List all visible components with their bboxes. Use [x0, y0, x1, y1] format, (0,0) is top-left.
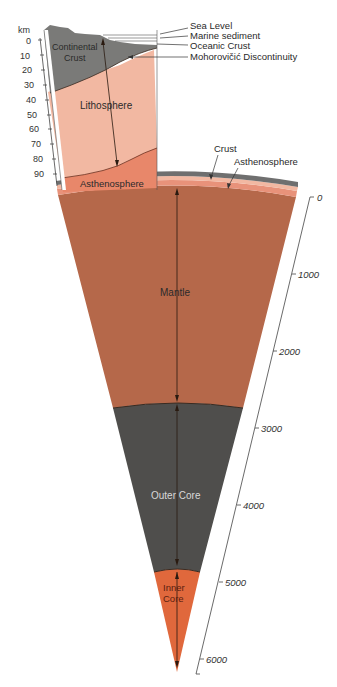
km-tick-40: 40 — [26, 95, 36, 105]
km-tick-90: 90 — [34, 169, 44, 179]
km-tick-50: 50 — [27, 110, 37, 120]
continental-crust-label-1: Continental — [52, 42, 98, 52]
asthenosphere-callout-label: Asthenosphere — [234, 156, 298, 167]
oceanic-crust-label: Oceanic Crust — [190, 40, 251, 51]
outer-core-label: Outer Core — [151, 490, 201, 501]
asthenosphere-label-top: Asthenosphere — [80, 178, 144, 189]
moho-discontinuity-label: Mohorovičić Discontinuity — [190, 51, 297, 62]
mantle-label: Mantle — [160, 287, 190, 298]
continental-crust-label-2: Crust — [64, 53, 86, 63]
km-tick-0: 0 — [26, 36, 31, 46]
depth-tick-1000: 1000 — [298, 269, 320, 280]
inner-core-label-1: Inner — [163, 582, 185, 593]
depth-tick-6000: 6000 — [206, 654, 228, 665]
earth-structure-diagram: km 0 10 20 30 40 50 60 70 80 90 Continen… — [0, 0, 337, 687]
depth-tick-2000: 2000 — [278, 346, 301, 357]
km-tick-20: 20 — [22, 65, 32, 75]
km-tick-30: 30 — [24, 80, 34, 90]
km-tick-10: 10 — [20, 51, 30, 61]
depth-tick-0: 0 — [317, 192, 323, 203]
km-tick-60: 60 — [29, 124, 39, 134]
depth-tick-4000: 4000 — [243, 500, 265, 511]
outer-core-layer — [113, 403, 243, 572]
depth-tick-3000: 3000 — [261, 423, 283, 434]
crust-callout-label: Crust — [214, 143, 237, 154]
km-tick-70: 70 — [31, 139, 41, 149]
inner-core-label-2: Core — [163, 593, 184, 604]
depth-tick-5000: 5000 — [225, 577, 247, 588]
km-tick-80: 80 — [33, 154, 43, 164]
lithosphere-label: Lithosphere — [80, 100, 133, 111]
km-unit-label: km — [18, 25, 30, 35]
